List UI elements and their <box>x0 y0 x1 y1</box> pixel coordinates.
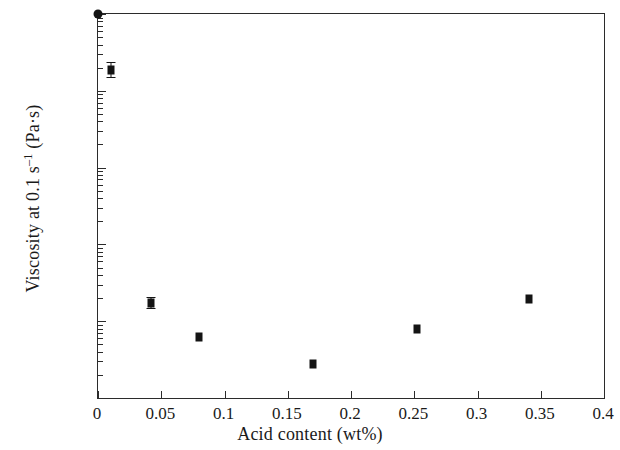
y-minor-tick-mark <box>98 221 103 222</box>
x-tick-mark <box>414 391 415 398</box>
y-minor-tick-mark <box>98 31 103 32</box>
x-tick-label: 0.1 <box>213 404 234 424</box>
x-tick-label: 0.3 <box>466 404 487 424</box>
y-axis-title-prefix: Viscosity at 0.1 s <box>23 166 43 293</box>
error-bar-cap <box>147 308 156 309</box>
y-minor-tick-mark <box>98 131 103 132</box>
x-tick-mark <box>288 391 289 398</box>
x-tick-label: 0 <box>93 404 102 424</box>
y-minor-tick-mark <box>98 361 103 362</box>
data-point <box>310 359 317 368</box>
y-minor-tick-mark <box>98 344 103 345</box>
y-minor-tick-mark <box>98 171 103 172</box>
chart-figure: Viscosity at 0.1 s–1 (Pa·s) Acid content… <box>0 0 620 450</box>
y-minor-tick-mark <box>98 352 103 353</box>
data-point <box>148 298 155 307</box>
y-minor-tick-mark <box>98 179 103 180</box>
data-point <box>94 10 103 19</box>
y-axis-title: Viscosity at 0.1 s–1 (Pa·s) <box>21 0 44 399</box>
y-minor-tick-mark <box>98 121 103 122</box>
x-tick-label: 0.35 <box>525 404 555 424</box>
x-tick-mark <box>478 391 479 398</box>
y-minor-tick-mark <box>98 175 103 176</box>
y-tick-mark <box>98 244 106 245</box>
y-tick-mark <box>98 168 106 169</box>
x-tick-label: 0.2 <box>339 404 360 424</box>
y-minor-tick-mark <box>98 185 103 186</box>
y-tick-mark <box>98 398 106 399</box>
y-minor-tick-mark <box>98 325 103 326</box>
data-point <box>413 325 420 334</box>
y-minor-tick-mark <box>98 252 103 253</box>
y-minor-tick-mark <box>98 338 103 339</box>
y-minor-tick-mark <box>98 375 103 376</box>
plot-area <box>97 13 605 399</box>
data-point <box>107 66 114 75</box>
x-tick-label: 0.05 <box>145 404 175 424</box>
error-bar-cap <box>106 62 115 63</box>
y-minor-tick-mark <box>98 198 103 199</box>
y-minor-tick-mark <box>98 108 103 109</box>
x-tick-mark <box>541 391 542 398</box>
y-minor-tick-mark <box>98 208 103 209</box>
y-minor-tick-mark <box>98 333 103 334</box>
y-axis-title-exponent: –1 <box>21 153 35 166</box>
x-tick-mark <box>604 391 605 398</box>
y-minor-tick-mark <box>98 114 103 115</box>
y-axis-title-suffix: (Pa·s) <box>23 104 43 153</box>
x-tick-mark <box>161 391 162 398</box>
y-minor-tick-mark <box>98 94 103 95</box>
y-minor-tick-mark <box>98 275 103 276</box>
y-minor-tick-mark <box>98 37 103 38</box>
y-minor-tick-mark <box>98 45 103 46</box>
y-minor-tick-mark <box>98 103 103 104</box>
y-tick-mark <box>98 91 106 92</box>
y-minor-tick-mark <box>98 285 103 286</box>
y-minor-tick-mark <box>98 21 103 22</box>
y-minor-tick-mark <box>98 191 103 192</box>
y-minor-tick-mark <box>98 98 103 99</box>
y-minor-tick-mark <box>98 261 103 262</box>
y-minor-tick-mark <box>98 256 103 257</box>
x-axis-title: Acid content (wt%) <box>0 424 620 445</box>
x-tick-label: 0.4 <box>592 404 613 424</box>
y-minor-tick-mark <box>98 26 103 27</box>
y-minor-tick-mark <box>98 54 103 55</box>
y-minor-tick-mark <box>98 248 103 249</box>
error-bar-cap <box>106 77 115 78</box>
data-point <box>526 295 533 304</box>
x-tick-mark <box>98 391 99 398</box>
y-minor-tick-mark <box>98 268 103 269</box>
x-tick-mark <box>225 391 226 398</box>
x-tick-mark <box>351 391 352 398</box>
y-tick-mark <box>98 321 106 322</box>
x-tick-label: 0.15 <box>272 404 302 424</box>
data-point <box>196 333 203 342</box>
x-tick-label: 0.25 <box>398 404 428 424</box>
y-minor-tick-mark <box>98 68 103 69</box>
y-minor-tick-mark <box>98 144 103 145</box>
y-minor-tick-mark <box>98 329 103 330</box>
y-minor-tick-mark <box>98 298 103 299</box>
